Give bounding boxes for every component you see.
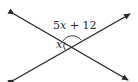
obtuse-angle-arc bbox=[63, 36, 81, 41]
obtuse-angle-label: 5x + 12 bbox=[53, 19, 96, 32]
acute-angle-label: x bbox=[56, 38, 63, 51]
intersecting-lines-diagram: 5x + 12 x bbox=[0, 0, 138, 82]
